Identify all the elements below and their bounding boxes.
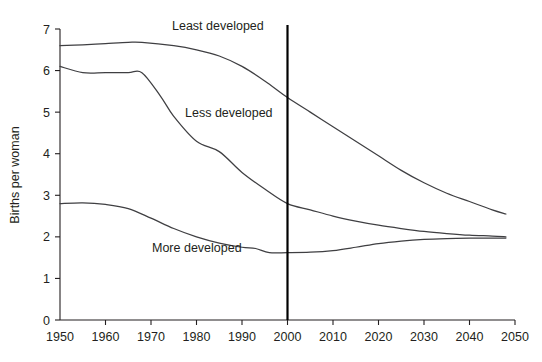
y-tick-label-4: 4: [43, 147, 50, 161]
series-label-less-developed: Less developed: [185, 106, 273, 120]
y-tick-label-5: 5: [43, 106, 50, 120]
y-axis-title: Births per woman: [8, 126, 22, 223]
x-tick-label-2050: 2050: [501, 330, 529, 344]
series-label-least-developed: Least developed: [172, 19, 264, 33]
x-axis: 1950196019701980199020002010202020302040…: [46, 320, 529, 344]
y-tick-label-0: 0: [43, 314, 50, 328]
y-tick-label-2: 2: [43, 230, 50, 244]
y-tick-label-3: 3: [43, 189, 50, 203]
series-labels: Least developedLess developedMore develo…: [152, 19, 273, 255]
x-tick-label-2040: 2040: [456, 330, 484, 344]
x-tick-label-2020: 2020: [365, 330, 393, 344]
x-tick-label-2010: 2010: [319, 330, 347, 344]
x-tick-label-1970: 1970: [137, 330, 165, 344]
x-tick-label-2030: 2030: [410, 330, 438, 344]
x-tick-label-1990: 1990: [228, 330, 256, 344]
series-label-more-developed: More developed: [152, 241, 242, 255]
x-tick-label-1950: 1950: [46, 330, 74, 344]
chart-canvas: 01234567 1950196019701980199020002010202…: [0, 0, 542, 362]
series-line-less-developed: [60, 66, 506, 236]
y-axis: 01234567: [43, 23, 60, 328]
series-line-more-developed: [60, 203, 506, 253]
x-tick-label-1960: 1960: [92, 330, 120, 344]
x-tick-label-2000: 2000: [274, 330, 302, 344]
series-lines: [60, 42, 506, 253]
y-tick-label-6: 6: [43, 64, 50, 78]
y-tick-label-1: 1: [43, 272, 50, 286]
series-line-least-developed: [60, 42, 506, 214]
y-tick-label-7: 7: [43, 23, 50, 37]
fertility-line-chart: 01234567 1950196019701980199020002010202…: [0, 0, 542, 362]
x-tick-label-1980: 1980: [183, 330, 211, 344]
